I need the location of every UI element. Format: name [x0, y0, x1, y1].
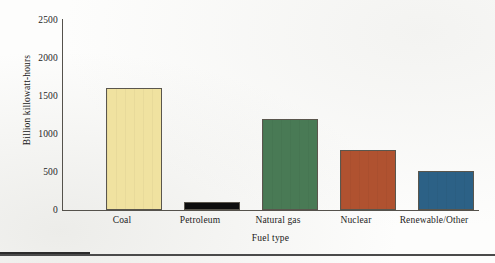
bar-slot-coal — [106, 20, 162, 210]
y-tick-1000: 1000 — [14, 129, 58, 139]
y-axis-tick-labels: 2500 2000 1500 1000 500 0 — [8, 0, 58, 263]
bar-slot-natural-gas — [262, 20, 318, 210]
bar-petroleum[interactable] — [184, 202, 240, 210]
y-tick-500: 500 — [14, 167, 58, 177]
x-axis-line — [62, 210, 479, 211]
bar-slot-nuclear — [340, 20, 396, 210]
bar-natural-gas[interactable] — [262, 119, 318, 210]
bar-slot-renewable-other — [418, 20, 474, 210]
page-rule — [0, 254, 495, 256]
x-axis-title: Fuel type — [62, 232, 479, 244]
y-tick-2500: 2500 — [14, 15, 58, 25]
bar-renewable-other[interactable] — [418, 171, 474, 210]
y-tick-2000: 2000 — [14, 53, 58, 63]
bar-slot-petroleum — [184, 20, 240, 210]
bar-nuclear[interactable] — [340, 150, 396, 210]
bar-coal[interactable] — [106, 88, 162, 210]
y-tick-1500: 1500 — [14, 91, 58, 101]
y-tick-0: 0 — [14, 205, 58, 215]
x-tick-label-renewable-other: Renewable/Other — [374, 214, 494, 226]
plot-area — [62, 20, 478, 210]
bar-chart-figure: Billion killowatt-hours 2500 2000 1500 1… — [0, 0, 495, 263]
